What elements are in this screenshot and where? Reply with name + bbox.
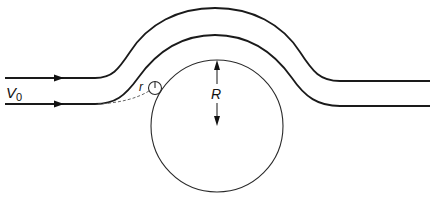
small-radius-label: r (139, 80, 144, 94)
radius-arrow-up-icon (214, 60, 220, 70)
lower-flow-arrow-icon (54, 101, 64, 108)
upper-flow-arrow-icon (54, 75, 64, 82)
radius-arrow-down-icon (214, 116, 220, 126)
flow-over-cylinder-diagram: V0 R r (0, 0, 434, 198)
velocity-label: V0 (6, 84, 22, 103)
large-radius-label: R (211, 86, 221, 102)
